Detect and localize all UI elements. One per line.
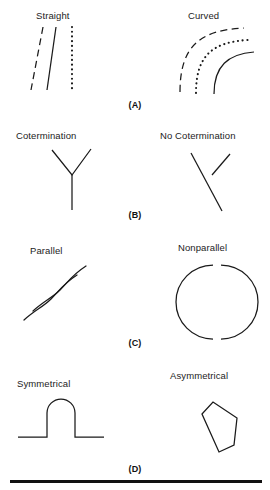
panel-c: Parallel Nonparallel (C) bbox=[0, 230, 270, 358]
dashed-arc-icon bbox=[180, 28, 244, 92]
figure-canvas: Straight Curved (A) Cotermination No Cot… bbox=[0, 0, 270, 490]
panel-letter-d: (D) bbox=[0, 464, 270, 474]
panel-d: Symmetrical Asymmetrical (D) bbox=[0, 358, 270, 490]
solid-straight-line-icon bbox=[47, 27, 56, 90]
dashed-straight-line-icon bbox=[31, 27, 43, 90]
wavy-line-upper-icon bbox=[33, 266, 86, 311]
circle-arc-left-icon bbox=[176, 265, 213, 339]
symmetric-bump-profile-icon bbox=[18, 399, 104, 437]
panel-a: Straight Curved (A) bbox=[0, 0, 270, 118]
solid-arc-icon bbox=[214, 52, 254, 94]
horizontal-divider bbox=[10, 480, 262, 483]
short-diagonal-line-icon bbox=[212, 154, 230, 175]
circle-arc-right-icon bbox=[221, 265, 258, 339]
long-diagonal-line-icon bbox=[191, 153, 222, 211]
panel-letter-b: (B) bbox=[0, 210, 270, 220]
panel-b: Cotermination No Cotermination (B) bbox=[0, 118, 270, 230]
panel-letter-a: (A) bbox=[0, 100, 270, 110]
panel-letter-c: (C) bbox=[0, 338, 270, 348]
y-junction-branches-icon bbox=[52, 149, 91, 175]
irregular-pentagon-icon bbox=[202, 402, 237, 452]
